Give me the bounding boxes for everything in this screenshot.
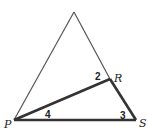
segment-pr <box>14 79 110 120</box>
angle-label-2: 2 <box>95 71 101 82</box>
side-apex-r <box>74 12 110 79</box>
triangle-diagram: P R S 2 3 4 <box>0 0 148 134</box>
vertex-label-p: P <box>3 118 12 131</box>
vertex-label-r: R <box>113 72 122 85</box>
angle-label-4: 4 <box>45 109 51 120</box>
side-apex-p <box>14 12 74 120</box>
angle-label-3: 3 <box>120 110 126 121</box>
vertex-label-s: S <box>139 117 147 130</box>
